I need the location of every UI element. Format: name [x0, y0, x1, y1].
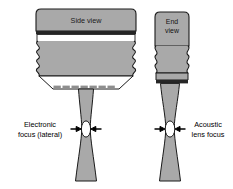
side-view-label: Side view — [71, 16, 103, 25]
transducer-array — [54, 86, 115, 89]
side-view-assembly: Side view — [30, 9, 142, 181]
end-view-label-line1: End — [166, 18, 178, 25]
end-view-neck — [156, 73, 188, 80]
transducer-focusing-diagram: Side view — [0, 0, 233, 189]
end-view-label-line2: view — [165, 27, 179, 34]
electronic-focus-annotation: Electronic focus (lateral) — [18, 120, 62, 139]
electronic-focus-label-line2: focus (lateral) — [18, 130, 62, 139]
side-view-corrugated-fill — [30, 33, 142, 79]
acoustic-lens-focus-label-line1: Acoustic — [194, 120, 222, 129]
electronic-focus-label-line1: Electronic — [24, 120, 56, 129]
end-view-focal-zone — [165, 121, 175, 137]
acoustic-lens-focus-annotation: Acoustic lens focus — [192, 120, 225, 139]
end-view-dark-band — [156, 80, 188, 83]
side-view-focal-zone — [81, 121, 90, 137]
acoustic-lens-focus-label-line2: lens focus — [192, 130, 225, 139]
side-view-dark-band — [36, 31, 136, 34]
end-view-assembly: End view — [148, 12, 198, 181]
diagram-root: Side view — [0, 0, 233, 189]
